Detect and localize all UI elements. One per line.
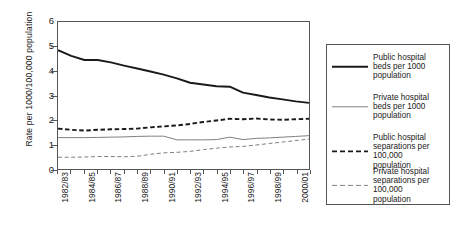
x-tick-mark xyxy=(124,170,125,174)
legend-item-3: Private hospital separations per 100,000… xyxy=(327,167,451,204)
series-line-2 xyxy=(58,119,309,131)
x-tick-mark xyxy=(97,170,98,174)
x-tick-mark xyxy=(310,170,311,174)
x-tick-mark xyxy=(110,170,111,174)
y-tick-mark-4 xyxy=(51,71,57,72)
legend-item-2: Public hospital separations per 100,000 … xyxy=(327,133,451,170)
series-line-3 xyxy=(58,139,309,157)
legend-item-1: Private hospital beds per 1000 populatio… xyxy=(327,93,451,121)
y-tick-mark-1 xyxy=(51,145,57,146)
x-tick-label-1994-95: 1994/95 xyxy=(221,172,230,203)
series-line-0 xyxy=(58,50,309,103)
series-lines xyxy=(58,22,309,169)
x-tick-label-1990-91: 1990/91 xyxy=(168,172,177,203)
y-tick-mark-3 xyxy=(51,96,57,97)
series-line-1 xyxy=(58,136,309,140)
x-tick-label-1984-85: 1984/85 xyxy=(88,172,97,203)
x-tick-label-2000-01: 2000/01 xyxy=(301,172,310,203)
x-tick-label-1982-83: 1982/83 xyxy=(61,172,70,203)
legend-label-0: Public hospital beds per 1000 population xyxy=(370,53,426,81)
x-tick-label-1996-97: 1996/97 xyxy=(247,172,256,203)
x-tick-mark xyxy=(137,170,138,174)
x-axis-tick-labels: 1982/831984/851986/871988/891990/911992/… xyxy=(57,172,310,232)
y-tick-mark-5 xyxy=(51,46,57,47)
legend-swatch-icon-3 xyxy=(332,167,370,204)
chart-legend: Public hospital beds per 1000 population… xyxy=(326,44,450,205)
x-tick-mark xyxy=(177,170,178,174)
legend-label-1: Private hospital beds per 1000 populatio… xyxy=(370,93,429,121)
x-tick-mark xyxy=(150,170,151,174)
x-tick-mark xyxy=(164,170,165,174)
x-tick-mark xyxy=(203,170,204,174)
legend-item-0: Public hospital beds per 1000 population xyxy=(327,53,451,81)
legend-swatch-icon-1 xyxy=(332,93,370,121)
y-tick-mark-2 xyxy=(51,120,57,121)
x-tick-label-1992-93: 1992/93 xyxy=(194,172,203,203)
x-tick-mark xyxy=(257,170,258,174)
x-tick-mark xyxy=(283,170,284,174)
x-tick-mark xyxy=(230,170,231,174)
y-axis-title: Rate per 1000/100,000 population xyxy=(24,0,34,164)
x-tick-mark xyxy=(70,170,71,174)
legend-label-3: Private hospital separations per 100,000… xyxy=(370,167,429,204)
x-tick-mark xyxy=(217,170,218,174)
x-tick-mark xyxy=(297,170,298,174)
x-tick-mark xyxy=(57,170,58,174)
y-tick-label-6: 6 xyxy=(49,16,54,26)
x-tick-mark xyxy=(84,170,85,174)
plot-area xyxy=(57,21,310,170)
x-tick-label-1986-87: 1986/87 xyxy=(114,172,123,203)
x-tick-mark xyxy=(190,170,191,174)
x-tick-mark xyxy=(243,170,244,174)
x-tick-label-1988-89: 1988/89 xyxy=(141,172,150,203)
legend-label-2: Public hospital separations per 100,000 … xyxy=(370,133,429,170)
chart-figure: Rate per 1000/100,000 population 6543210… xyxy=(0,0,457,233)
legend-swatch-icon-0 xyxy=(332,53,370,81)
legend-swatch-icon-2 xyxy=(332,133,370,170)
x-tick-label-1998-99: 1998/99 xyxy=(274,172,283,203)
x-tick-mark xyxy=(270,170,271,174)
